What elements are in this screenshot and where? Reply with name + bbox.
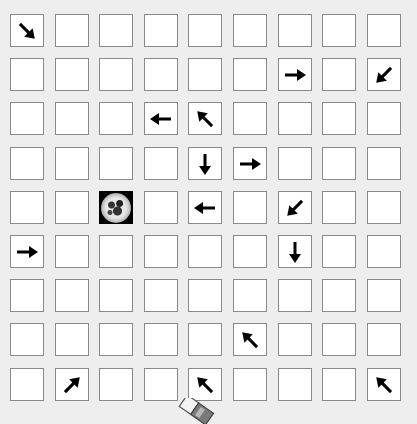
grid-cell-r3-c3[interactable] xyxy=(144,147,178,180)
grid-cell-r0-c1[interactable] xyxy=(55,14,89,47)
grid-cell-r5-c8[interactable] xyxy=(367,235,401,268)
grid-cell-r3-c4[interactable] xyxy=(188,147,222,180)
grid-cell-r1-c4[interactable] xyxy=(188,58,222,91)
arrow-left-icon xyxy=(148,106,174,132)
grid-cell-r1-c3[interactable] xyxy=(144,58,178,91)
arrow-up-right-icon xyxy=(59,372,85,398)
grid-cell-r2-c5[interactable] xyxy=(233,102,267,135)
arrow-down-right-icon xyxy=(14,18,40,44)
grid-cell-r6-c2[interactable] xyxy=(99,279,133,312)
grid-cell-r1-c5[interactable] xyxy=(233,58,267,91)
grid-cell-r8-c8[interactable] xyxy=(367,368,401,401)
grid-cell-r3-c1[interactable] xyxy=(55,147,89,180)
grid-cell-r2-c0[interactable] xyxy=(10,102,44,135)
grid-cell-r8-c6[interactable] xyxy=(278,368,312,401)
grid-cell-r4-c3[interactable] xyxy=(144,191,178,224)
grid-cell-r2-c8[interactable] xyxy=(367,102,401,135)
grid-cell-r2-c4[interactable] xyxy=(188,102,222,135)
grid-cell-r4-c4[interactable] xyxy=(188,191,222,224)
arrow-up-left-icon xyxy=(371,372,397,398)
grid-cell-r4-c1[interactable] xyxy=(55,191,89,224)
grid-cell-r7-c5[interactable] xyxy=(233,323,267,356)
grid-cell-r2-c3[interactable] xyxy=(144,102,178,135)
grid-cell-r7-c3[interactable] xyxy=(144,323,178,356)
grid-cell-r5-c2[interactable] xyxy=(99,235,133,268)
grid-cell-r4-c7[interactable] xyxy=(322,191,356,224)
grid-cell-r1-c2[interactable] xyxy=(99,58,133,91)
arrow-puzzle-board xyxy=(0,0,417,424)
grid-cell-r6-c3[interactable] xyxy=(144,279,178,312)
grid-cell-r3-c2[interactable] xyxy=(99,147,133,180)
grid-cell-r3-c7[interactable] xyxy=(322,147,356,180)
grid-cell-r5-c3[interactable] xyxy=(144,235,178,268)
grid-cell-r1-c0[interactable] xyxy=(10,58,44,91)
grid-cell-r5-c1[interactable] xyxy=(55,235,89,268)
grid-cell-r5-c5[interactable] xyxy=(233,235,267,268)
grid-cell-r1-c6[interactable] xyxy=(278,58,312,91)
arrow-down-icon xyxy=(192,151,218,177)
grid-cell-r1-c1[interactable] xyxy=(55,58,89,91)
grid-cell-r1-c8[interactable] xyxy=(367,58,401,91)
grid-cell-r8-c7[interactable] xyxy=(322,368,356,401)
arrow-right-icon xyxy=(282,62,308,88)
grid-cell-r7-c4[interactable] xyxy=(188,323,222,356)
eraser-icon[interactable] xyxy=(176,398,220,424)
grid-cell-r4-c0[interactable] xyxy=(10,191,44,224)
grid-cell-r0-c7[interactable] xyxy=(322,14,356,47)
grid-cell-r0-c5[interactable] xyxy=(233,14,267,47)
grid-cell-r3-c8[interactable] xyxy=(367,147,401,180)
grid-cell-r2-c1[interactable] xyxy=(55,102,89,135)
grid-cell-r8-c3[interactable] xyxy=(144,368,178,401)
grid-cell-r8-c0[interactable] xyxy=(10,368,44,401)
grid-cell-r8-c2[interactable] xyxy=(99,368,133,401)
arrow-down-left-icon xyxy=(371,62,397,88)
grid-cell-r6-c4[interactable] xyxy=(188,279,222,312)
grid-cell-r4-c5[interactable] xyxy=(233,191,267,224)
grid-cell-r4-c2[interactable] xyxy=(99,191,133,224)
grid-cell-r2-c7[interactable] xyxy=(322,102,356,135)
grid-cell-r2-c2[interactable] xyxy=(99,102,133,135)
grid-cell-r6-c7[interactable] xyxy=(322,279,356,312)
grid-cell-r3-c6[interactable] xyxy=(278,147,312,180)
grid-cell-r4-c8[interactable] xyxy=(367,191,401,224)
grid-cell-r0-c0[interactable] xyxy=(10,14,44,47)
grid-cell-r0-c2[interactable] xyxy=(99,14,133,47)
arrow-up-left-icon xyxy=(237,327,263,353)
grid-cell-r5-c6[interactable] xyxy=(278,235,312,268)
grid-cell-r0-c6[interactable] xyxy=(278,14,312,47)
grid-cell-r7-c2[interactable] xyxy=(99,323,133,356)
grid-cell-r5-c4[interactable] xyxy=(188,235,222,268)
arrow-down-left-icon xyxy=(282,195,308,221)
grid-cell-r3-c5[interactable] xyxy=(233,147,267,180)
arrow-right-icon xyxy=(14,239,40,265)
grid-cell-r8-c4[interactable] xyxy=(188,368,222,401)
grid-cell-r6-c0[interactable] xyxy=(10,279,44,312)
grid-cell-r6-c5[interactable] xyxy=(233,279,267,312)
grid-cell-r5-c7[interactable] xyxy=(322,235,356,268)
grid-cell-r0-c8[interactable] xyxy=(367,14,401,47)
grid-cell-r8-c5[interactable] xyxy=(233,368,267,401)
grid-cell-r7-c1[interactable] xyxy=(55,323,89,356)
grid-cell-r7-c0[interactable] xyxy=(10,323,44,356)
grid-cell-r6-c6[interactable] xyxy=(278,279,312,312)
arrow-left-icon xyxy=(192,195,218,221)
grid-cell-r3-c0[interactable] xyxy=(10,147,44,180)
grid-cell-r2-c6[interactable] xyxy=(278,102,312,135)
grid-cell-r7-c6[interactable] xyxy=(278,323,312,356)
grid-cell-r5-c0[interactable] xyxy=(10,235,44,268)
grid-cell-r7-c8[interactable] xyxy=(367,323,401,356)
grid-cell-r7-c7[interactable] xyxy=(322,323,356,356)
globe-icon xyxy=(101,193,131,223)
arrow-up-left-icon xyxy=(192,372,218,398)
grid-cell-r0-c3[interactable] xyxy=(144,14,178,47)
grid-cell-r8-c1[interactable] xyxy=(55,368,89,401)
grid-cell-r4-c6[interactable] xyxy=(278,191,312,224)
arrow-down-icon xyxy=(282,239,308,265)
grid-cell-r1-c7[interactable] xyxy=(322,58,356,91)
arrow-right-icon xyxy=(237,151,263,177)
grid-cell-r6-c1[interactable] xyxy=(55,279,89,312)
arrow-up-left-icon xyxy=(192,106,218,132)
grid-cell-r0-c4[interactable] xyxy=(188,14,222,47)
grid-cell-r6-c8[interactable] xyxy=(367,279,401,312)
